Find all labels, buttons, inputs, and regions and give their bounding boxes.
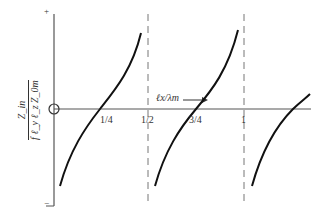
tick-label-one: 1 [241, 114, 246, 125]
y-axis-label: Z_in f ℓ_y ℓ_z Z_0m [16, 80, 60, 140]
curve-branch-3 [252, 94, 310, 186]
y-minus-label: − [44, 198, 49, 208]
tick-label-half: 1/2 [141, 114, 154, 125]
x-axis-label: ℓx/λm [156, 92, 179, 103]
y-label-numerator: Z_in [16, 80, 29, 140]
tick-label-quarter: 1/4 [100, 114, 113, 125]
curve-branch-2 [155, 30, 238, 186]
y-plus-label: + [44, 6, 49, 16]
y-label-denominator: f ℓ_y ℓ_z Z_0m [29, 80, 41, 140]
tick-label-three-quarter: 3/4 [189, 114, 202, 125]
